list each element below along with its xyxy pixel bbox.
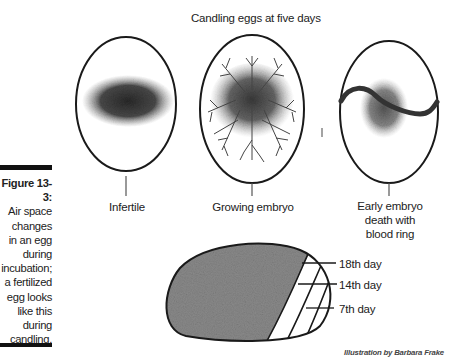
label-line: death with [352, 213, 428, 227]
egg-blood-ring [322, 41, 438, 196]
label-line: Early embryo [352, 199, 428, 213]
egg-growing-embryo [200, 35, 304, 196]
candling-illustration [0, 0, 452, 362]
label-14th-day: 14th day [339, 278, 382, 292]
label-line: blood ring [352, 227, 428, 241]
label-blood-ring: Early embryo death with blood ring [352, 199, 428, 241]
label-7th-day: 7th day [339, 302, 375, 316]
egg-infertile [76, 37, 176, 196]
egg-air-space-diagram [150, 230, 337, 350]
illustration-credit: Illustration by Barbara Frake [344, 348, 444, 357]
label-18th-day: 18th day [339, 257, 382, 271]
label-growing-embryo: Growing embryo [206, 200, 300, 214]
label-infertile: Infertile [96, 200, 158, 214]
